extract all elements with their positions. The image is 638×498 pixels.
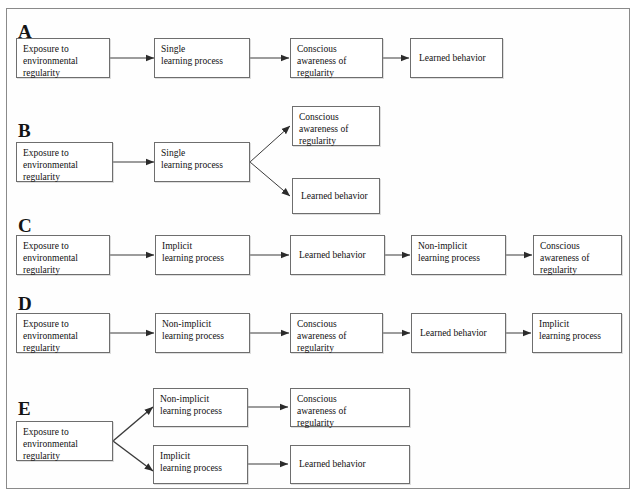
panel-b-node-learned-behavior: Learned behavior <box>292 178 380 214</box>
panel-label-e: E <box>18 399 31 418</box>
panel-d-node-non-implicit-learning: Non-implicit learning process <box>155 313 250 353</box>
panel-d-node-implicit-learning: Implicit learning process <box>532 313 622 353</box>
panel-e-node-non-implicit-learning: Non-implicit learning process <box>153 388 248 427</box>
panel-e-node-implicit-learning: Implicit learning process <box>153 445 248 484</box>
panel-b-node-conscious-awareness: Conscious awareness of regularity <box>292 106 380 146</box>
panel-label-b: B <box>18 121 31 140</box>
panel-d-node-learned-behavior: Learned behavior <box>411 313 506 353</box>
panel-e-node-exposure: Exposure to environmental regularity <box>16 421 113 461</box>
panel-d-node-exposure: Exposure to environmental regularity <box>16 313 110 353</box>
panel-e-node-conscious-awareness: Conscious awareness of regularity <box>290 388 410 427</box>
panel-b-node-single-learning: Single learning process <box>154 142 250 182</box>
panel-d-node-conscious-awareness: Conscious awareness of regularity <box>290 313 383 353</box>
panel-a-node-learned-behavior: Learned behavior <box>410 38 503 78</box>
figure-canvas: A Exposure to environmental regularity S… <box>0 0 638 498</box>
panel-label-d: D <box>18 294 32 313</box>
panel-e-node-learned-behavior: Learned behavior <box>290 445 410 484</box>
panel-a-node-single-learning: Single learning process <box>154 38 250 78</box>
panel-a-node-exposure: Exposure to environmental regularity <box>16 38 110 78</box>
panel-c-node-conscious-awareness: Conscious awareness of regularity <box>533 235 622 275</box>
panel-b-node-exposure: Exposure to environmental regularity <box>16 142 113 182</box>
panel-c-node-exposure: Exposure to environmental regularity <box>16 235 110 275</box>
panel-c-node-implicit-learning: Implicit learning process <box>155 235 250 275</box>
panel-c-node-learned-behavior: Learned behavior <box>290 235 385 275</box>
panel-label-c: C <box>18 216 32 235</box>
panel-a-node-conscious-awareness: Conscious awareness of regularity <box>290 38 383 78</box>
panel-c-node-non-implicit-learning: Non-implicit learning process <box>411 235 506 275</box>
